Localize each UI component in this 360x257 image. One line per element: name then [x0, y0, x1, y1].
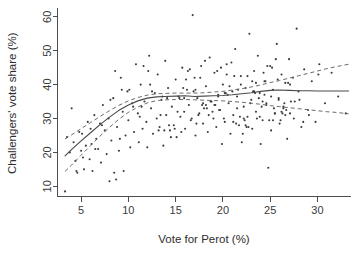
data-point	[78, 131, 80, 133]
data-point	[303, 68, 305, 70]
data-point	[265, 102, 267, 104]
data-point	[285, 109, 287, 111]
data-point	[263, 72, 265, 74]
data-point	[213, 104, 215, 106]
data-point	[280, 111, 282, 113]
data-point	[168, 124, 170, 126]
data-point	[191, 117, 193, 119]
data-point	[101, 124, 103, 126]
data-point	[226, 63, 228, 65]
x-tick-label: 15	[170, 204, 182, 216]
chart-canvas: 10203040506051015202530Vote for Perot (%…	[0, 0, 360, 257]
data-point	[213, 72, 215, 74]
scatter-plot-figure: 10203040506051015202530Vote for Perot (%…	[0, 0, 360, 257]
y-tick-label: 50	[42, 45, 54, 57]
data-point	[290, 101, 292, 103]
x-tick-label: 10	[122, 204, 134, 216]
data-point	[212, 117, 214, 119]
data-point	[241, 141, 243, 143]
data-point	[271, 67, 273, 69]
data-point	[226, 73, 228, 75]
data-point	[115, 179, 117, 181]
data-point	[138, 141, 140, 143]
data-point	[174, 128, 176, 130]
data-point	[224, 121, 226, 123]
data-point	[158, 129, 160, 131]
data-point	[280, 73, 282, 75]
data-point	[259, 92, 261, 94]
data-point	[157, 73, 159, 75]
data-point	[294, 101, 296, 103]
data-point	[235, 123, 237, 125]
data-point	[228, 85, 230, 87]
data-point	[230, 62, 232, 64]
data-point	[97, 148, 99, 150]
data-point	[242, 133, 244, 135]
data-point	[83, 168, 85, 170]
data-point	[102, 104, 104, 106]
data-point	[181, 67, 183, 69]
y-tick-label: 30	[42, 112, 54, 124]
data-point	[109, 99, 111, 101]
data-point	[202, 123, 204, 125]
data-point	[238, 124, 240, 126]
data-point	[255, 82, 257, 84]
data-point	[89, 158, 91, 160]
data-point	[268, 119, 270, 121]
data-point	[284, 82, 286, 84]
data-point	[140, 84, 142, 86]
data-point	[231, 90, 233, 92]
data-point	[289, 112, 291, 114]
x-tick-label: 25	[264, 204, 276, 216]
data-point	[133, 131, 135, 133]
data-point	[199, 77, 201, 79]
data-point	[116, 126, 118, 128]
data-point	[209, 56, 211, 58]
data-point	[208, 114, 210, 116]
data-point	[152, 133, 154, 135]
data-point	[194, 89, 196, 91]
data-point	[169, 129, 171, 131]
data-point	[262, 119, 264, 121]
data-point	[288, 58, 290, 60]
data-point	[87, 121, 89, 123]
data-point	[229, 133, 231, 135]
data-point	[139, 116, 141, 118]
data-point	[159, 126, 161, 128]
data-point	[280, 119, 282, 121]
data-point	[224, 92, 226, 94]
data-point	[164, 60, 166, 62]
data-point	[298, 99, 300, 101]
data-point	[135, 63, 137, 65]
data-point	[143, 101, 145, 103]
data-point	[128, 89, 130, 91]
data-point	[186, 89, 188, 91]
data-point	[163, 129, 165, 131]
x-axis-title: Vote for Perot (%)	[158, 233, 250, 245]
data-point	[183, 97, 185, 99]
data-point	[183, 111, 185, 113]
data-point	[273, 107, 275, 109]
data-point	[260, 143, 262, 145]
data-point	[311, 80, 313, 82]
data-point	[202, 102, 204, 104]
y-axis-title: Challengers' vote share (%)	[6, 32, 18, 174]
data-point	[314, 121, 316, 123]
data-point	[132, 106, 134, 108]
data-point	[293, 117, 295, 119]
data-point	[167, 87, 169, 89]
data-point	[145, 121, 147, 123]
data-point	[148, 55, 150, 57]
data-point	[175, 78, 177, 80]
data-point	[137, 112, 139, 114]
data-point	[233, 75, 235, 77]
data-point	[204, 60, 206, 62]
data-point	[257, 55, 259, 57]
data-point	[300, 126, 302, 128]
data-point	[277, 78, 279, 80]
data-point	[206, 107, 208, 109]
data-point	[274, 112, 276, 114]
data-point	[270, 95, 272, 97]
data-point	[121, 89, 123, 91]
data-point	[246, 116, 248, 118]
